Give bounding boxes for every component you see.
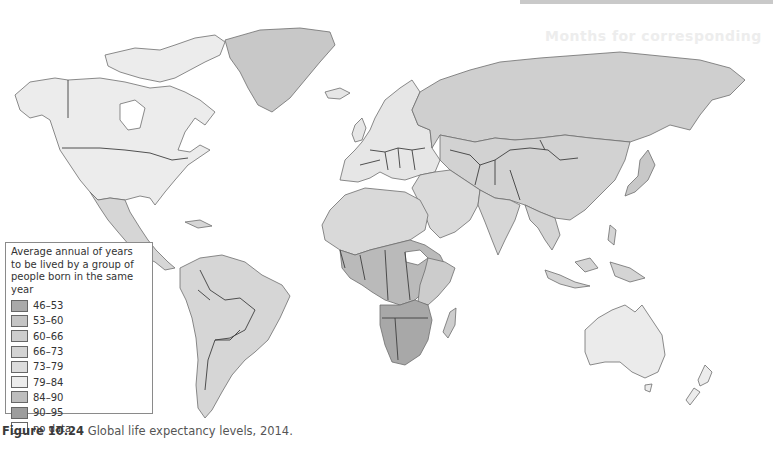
legend-item-90-95: 90–95	[11, 405, 147, 420]
legend-item-53-60: 53–60	[11, 313, 147, 328]
legend-label: 79–84	[33, 377, 63, 388]
legend-label: 90–95	[33, 407, 63, 418]
legend-swatch	[11, 346, 28, 358]
legend-label: 53–60	[33, 315, 63, 326]
figure-caption-text: Global life expectancy levels, 2014.	[84, 424, 293, 438]
region-indonesia	[545, 258, 645, 288]
map-legend: Average annual of years to be lived by a…	[5, 242, 153, 414]
region-madagascar	[443, 308, 456, 338]
legend-item-73-79: 73–79	[11, 359, 147, 374]
life-expectancy-figure: Months for corresponding	[0, 0, 773, 453]
legend-swatch	[11, 407, 28, 419]
region-new-zealand	[686, 365, 712, 405]
region-greenland	[225, 28, 335, 112]
legend-item-66-73: 66–73	[11, 344, 147, 359]
region-iceland	[325, 88, 350, 99]
legend-label: 84–90	[33, 392, 63, 403]
region-japan	[625, 150, 655, 196]
region-canada-arctic-islands	[105, 35, 225, 82]
region-southern-africa	[380, 300, 432, 365]
region-russia	[412, 52, 745, 148]
region-south-america	[180, 255, 290, 418]
legend-title-line-2: to be lived by a group of	[11, 259, 147, 272]
legend-swatch	[11, 376, 28, 388]
region-tasmania	[645, 384, 652, 392]
legend-item-60-66: 60–66	[11, 329, 147, 344]
legend-item-84-90: 84–90	[11, 390, 147, 405]
region-philippines	[608, 225, 616, 245]
legend-item-79-84: 79–84	[11, 374, 147, 389]
region-uk	[352, 118, 366, 142]
legend-label: 46–53	[33, 300, 63, 311]
legend-swatch	[11, 315, 28, 327]
legend-label: 73–79	[33, 361, 63, 372]
figure-caption: Figure 10.24 Global life expectancy leve…	[2, 424, 293, 438]
legend-item-46-53: 46–53	[11, 298, 147, 313]
legend-swatch	[11, 300, 28, 312]
region-caribbean	[185, 220, 212, 228]
legend-swatch	[11, 391, 28, 403]
region-australia	[585, 305, 665, 378]
legend-title-line-3: people born in the same year	[11, 271, 147, 296]
legend-swatch	[11, 361, 28, 373]
legend-title-line-1: Average annual of years	[11, 246, 147, 259]
legend-label: 60–66	[33, 331, 63, 342]
figure-number: Figure 10.24	[2, 424, 84, 438]
region-north-america	[15, 78, 215, 205]
legend-swatch	[11, 330, 28, 342]
legend-title: Average annual of years to be lived by a…	[11, 246, 147, 296]
legend-label: 66–73	[33, 346, 63, 357]
